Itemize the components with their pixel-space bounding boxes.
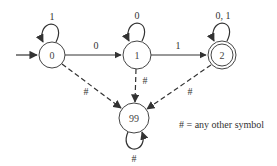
state-label: 0 — [50, 50, 55, 61]
edge-label: # — [143, 75, 148, 86]
self-loop-0: 1 — [42, 11, 59, 42]
edge-label: 0 — [94, 40, 99, 51]
state-99: 99 — [119, 103, 149, 133]
edge-label: # — [84, 86, 89, 97]
edge-label: 0 — [135, 10, 140, 21]
edge-label: # — [188, 86, 193, 97]
state-1: 1 — [123, 41, 151, 69]
self-loop-1: 0 — [128, 10, 145, 41]
dfa-diagram: 0 1 1 0 0, 1 # # # # 0 — [0, 0, 277, 166]
state-label: 99 — [129, 113, 139, 124]
edge-label: 1 — [50, 11, 55, 22]
edge-0-to-99: # — [62, 64, 121, 108]
edge-1-to-99: # — [135, 69, 148, 102]
state-label: 1 — [135, 50, 140, 61]
legend-text: # = any other symbol — [179, 119, 264, 130]
state-label: 2 — [220, 50, 225, 61]
self-loop-2: 0, 1 — [213, 10, 231, 41]
edge-label: # — [132, 153, 137, 164]
state-2-accepting: 2 — [208, 41, 236, 69]
edge-label: 1 — [176, 40, 181, 51]
edge-2-to-99: # — [147, 65, 211, 109]
edge-0-to-1: 0 — [65, 40, 121, 55]
state-0: 0 — [39, 42, 65, 68]
self-loop-99: # — [126, 132, 143, 164]
edge-1-to-2: 1 — [151, 40, 206, 55]
edge-label: 0, 1 — [216, 10, 231, 21]
